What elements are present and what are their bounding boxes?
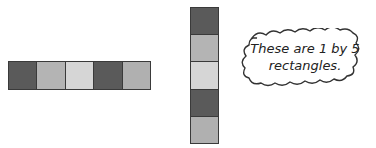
unit-square-medium — [122, 62, 150, 89]
callout-text: These are 1 by 5 rectangles. — [238, 40, 372, 74]
vertical-1-by-5-rectangle — [190, 7, 219, 144]
unit-square-light — [65, 62, 93, 89]
callout-line-2: rectangles. — [238, 57, 372, 74]
unit-square-dark — [191, 89, 218, 116]
unit-square-dark — [191, 8, 218, 34]
unit-square-medium — [191, 116, 218, 143]
unit-square-light — [191, 61, 218, 88]
unit-square-dark — [9, 62, 36, 89]
callout-line-1: These are 1 by 5 — [238, 40, 372, 57]
unit-square-medium — [191, 34, 218, 61]
unit-square-medium — [36, 62, 64, 89]
thought-cloud-callout: These are 1 by 5 rectangles. — [238, 28, 372, 92]
unit-square-dark — [93, 62, 121, 89]
horizontal-1-by-5-rectangle — [8, 61, 151, 90]
